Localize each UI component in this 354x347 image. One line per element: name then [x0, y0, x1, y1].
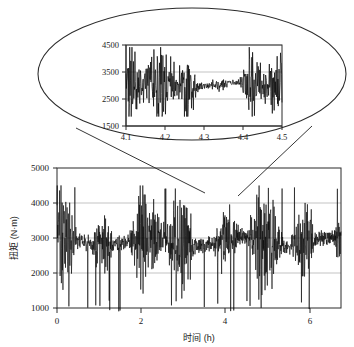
main-xtick-label-0: 0 [55, 316, 60, 326]
inset-xtick-label-4.3: 4.3 [199, 132, 210, 142]
figure-svg: 4500 3500 2500 1500 4.1 4.2 4.3 4.4 4.5 [0, 0, 354, 347]
inset-ytick-label-3500: 3500 [102, 67, 119, 77]
callout-leader-left [76, 128, 205, 193]
inset-xtick-label-4.2: 4.2 [160, 132, 171, 142]
main-ytick-label-2000: 2000 [31, 268, 50, 278]
callout-leader-right [238, 126, 312, 196]
inset-ytick-label-4500: 4500 [102, 40, 119, 50]
inset-ytick-label-2500: 2500 [102, 94, 119, 104]
inset-ytick-label-1500: 1500 [102, 121, 119, 131]
main-data-trace [57, 186, 341, 312]
main-ytick-label-4000: 4000 [31, 198, 50, 208]
inset-xtick-label-4.5: 4.5 [277, 132, 288, 142]
main-xtick-label-2: 2 [139, 316, 144, 326]
main-ytick-label-5000: 5000 [31, 163, 50, 173]
main-yaxis-title: 扭矩 (N·m) [8, 216, 19, 260]
inset-chart: 4500 3500 2500 1500 4.1 4.2 4.3 4.4 4.5 [102, 40, 287, 142]
main-ytick-label-1000: 1000 [31, 303, 50, 313]
main-chart: 5000 4000 3000 2000 1000 0 2 4 6 时间 (h) … [8, 163, 341, 343]
figure-root: 4500 3500 2500 1500 4.1 4.2 4.3 4.4 4.5 [0, 0, 354, 347]
inset-data-trace [126, 47, 282, 116]
main-xtick-label-4: 4 [223, 316, 228, 326]
main-xtick-label-6: 6 [308, 316, 313, 326]
main-ytick-label-3000: 3000 [31, 233, 50, 243]
inset-xtick-label-4.1: 4.1 [121, 132, 132, 142]
main-xaxis-title: 时间 (h) [183, 332, 215, 343]
inset-xtick-label-4.4: 4.4 [238, 132, 249, 142]
zoom-callout-ellipse [38, 8, 346, 140]
